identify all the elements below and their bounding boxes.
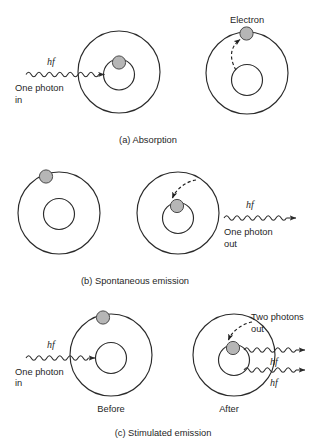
- atom-spontaneous-before: [18, 170, 100, 254]
- panel-absorption: hf One photon in Electron (a) Absorption: [15, 15, 288, 145]
- electron-dot: [170, 199, 183, 212]
- caption-panel-b: (b) Spontaneous emission: [81, 276, 189, 286]
- two-photons-label-line1: Two photons: [251, 312, 304, 322]
- outgoing-photon-ray: [224, 216, 296, 221]
- atom-stimulated-before: [70, 311, 152, 396]
- outer-orbit: [206, 32, 288, 114]
- incoming-photon-ray: [26, 72, 105, 77]
- photon-out-label-b-line2: out: [224, 239, 237, 249]
- inner-orbit: [44, 199, 75, 230]
- electron-dot: [96, 311, 109, 324]
- photon-in-label-a-line2: in: [15, 95, 22, 105]
- photon-in-label-a-line1: One photon: [15, 83, 64, 93]
- photon-in-label-c-line2: in: [15, 378, 22, 388]
- panel-stimulated-emission: hf One photon in hf hf Two photons out B…: [15, 311, 305, 438]
- before-label: Before: [97, 404, 124, 414]
- electron-dot: [226, 341, 239, 354]
- incoming-photon-ray-c: [26, 356, 95, 361]
- electron-fall-arrow: [173, 180, 197, 198]
- photon-energy-label-c-in: hf: [47, 339, 56, 350]
- photon-out-label-b-line1: One photon: [224, 227, 273, 237]
- two-photons-label-line2: out: [251, 324, 264, 334]
- caption-panel-c: (c) Stimulated emission: [115, 428, 212, 438]
- photon-energy-label-b: hf: [246, 199, 255, 210]
- atom-absorption-after: [206, 27, 288, 114]
- after-label: After: [219, 404, 239, 414]
- electron-jump-arrow: [231, 40, 240, 71]
- electron-dot: [39, 170, 52, 183]
- outer-orbit: [18, 172, 100, 254]
- panel-spontaneous-emission: hf One photon out (b) Spontaneous emissi…: [18, 170, 296, 286]
- inner-orbit: [96, 343, 127, 374]
- photon-in-label-c-line1: One photon: [15, 367, 64, 377]
- atom-spontaneous-after: [137, 172, 219, 254]
- photon-energy-label-c-out-2: hf: [270, 377, 279, 388]
- outer-orbit: [70, 314, 152, 396]
- energy-transition-diagram: hf One photon in Electron (a) Absorption: [0, 0, 327, 447]
- electron-label: Electron: [230, 15, 264, 25]
- photon-energy-label-c-out-1: hf: [270, 356, 279, 367]
- photon-energy-label-a: hf: [47, 56, 56, 67]
- electron-dot: [240, 27, 253, 40]
- electron-fall-arrow: [229, 322, 253, 340]
- outgoing-photon-ray-c-2: [244, 368, 305, 373]
- caption-panel-a: (a) Absorption: [119, 135, 177, 145]
- electron-dot: [112, 56, 125, 69]
